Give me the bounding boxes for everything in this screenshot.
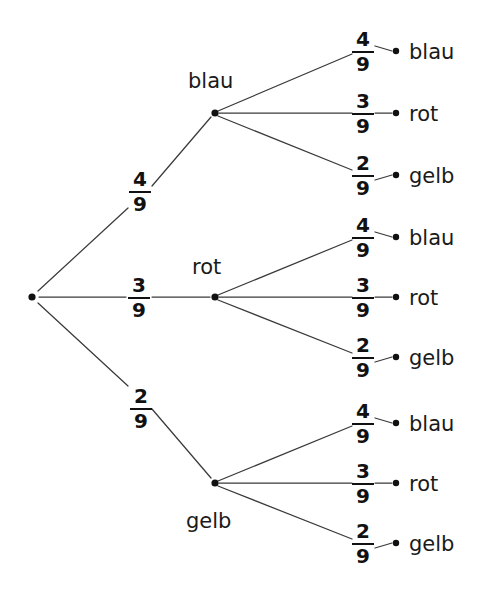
leaf-label-gelb-blau: blau bbox=[409, 412, 454, 436]
fraction-denominator: 9 bbox=[134, 409, 148, 433]
fraction-gelb-blau: 4 9 bbox=[352, 399, 374, 448]
tree-canvas: blau rot gelb 4 9 3 9 2 9 bbox=[0, 0, 481, 591]
fraction-numerator: 4 bbox=[356, 399, 370, 423]
node-label-gelb: gelb bbox=[186, 509, 231, 533]
fraction-rot-rot: 3 9 bbox=[352, 273, 374, 322]
fraction-root-rot: 3 9 bbox=[128, 273, 150, 322]
leaf-label-rot-blau: blau bbox=[409, 226, 454, 250]
fraction-numerator: 4 bbox=[356, 213, 370, 237]
level1-fractions: 4 9 3 9 2 9 bbox=[128, 167, 152, 433]
fraction-numerator: 2 bbox=[356, 519, 370, 543]
fraction-denominator: 9 bbox=[356, 358, 370, 382]
leaf-label-blau-gelb: gelb bbox=[409, 164, 454, 188]
fraction-blau-gelb: 2 9 bbox=[352, 151, 374, 200]
fraction-blau-blau: 4 9 bbox=[352, 27, 374, 76]
fraction-denominator: 9 bbox=[133, 192, 147, 216]
edge-rot-to-blau-tail bbox=[375, 232, 392, 237]
fraction-root-blau: 4 9 bbox=[129, 167, 151, 216]
fraction-root-gelb: 2 9 bbox=[130, 384, 152, 433]
leaf-group-rot: 4 9 3 9 2 9 blau rot gelb bbox=[352, 213, 454, 382]
leaf-label-blau-rot: rot bbox=[409, 102, 438, 126]
fraction-gelb-gelb: 2 9 bbox=[352, 519, 374, 568]
edge-blau-to-gelb bbox=[218, 116, 352, 170]
fraction-denominator: 9 bbox=[356, 52, 370, 76]
leaf-label-rot-gelb: gelb bbox=[409, 346, 454, 370]
leaf-label-blau-blau: blau bbox=[409, 40, 454, 64]
node-label-rot: rot bbox=[192, 255, 221, 279]
fraction-rot-gelb: 2 9 bbox=[352, 333, 374, 382]
fraction-numerator: 2 bbox=[356, 333, 370, 357]
leaf-dot-gelb-gelb[interactable] bbox=[393, 540, 399, 546]
fraction-numerator: 3 bbox=[356, 459, 370, 483]
edge-rot-to-gelb-tail bbox=[375, 357, 392, 362]
edge-root-to-gelb bbox=[38, 303, 128, 386]
fraction-rot-blau: 4 9 bbox=[352, 213, 374, 262]
fraction-denominator: 9 bbox=[356, 238, 370, 262]
leaf-label-gelb-rot: rot bbox=[409, 472, 438, 496]
fraction-numerator: 4 bbox=[133, 167, 147, 191]
edge-root-to-blau-upper bbox=[152, 117, 211, 186]
fraction-numerator: 2 bbox=[356, 151, 370, 175]
leaf-dot-gelb-rot[interactable] bbox=[393, 480, 399, 486]
leaf-group-blau: 4 9 3 9 2 9 blau rot gelb bbox=[352, 27, 454, 200]
fraction-numerator: 4 bbox=[356, 27, 370, 51]
leaf-dot-gelb-blau[interactable] bbox=[393, 420, 399, 426]
fraction-blau-rot: 3 9 bbox=[352, 89, 374, 138]
fraction-gelb-rot: 3 9 bbox=[352, 459, 374, 508]
node-root-dot[interactable] bbox=[28, 293, 35, 300]
edge-blau-to-gelb-tail bbox=[375, 175, 392, 180]
fraction-numerator: 3 bbox=[356, 273, 370, 297]
leaf-dot-rot-blau[interactable] bbox=[393, 234, 399, 240]
leaf-group-gelb: 4 9 3 9 2 9 blau rot gelb bbox=[352, 399, 454, 568]
leaf-dot-blau-gelb[interactable] bbox=[393, 172, 399, 178]
level1-edges bbox=[38, 117, 211, 478]
fraction-denominator: 9 bbox=[356, 544, 370, 568]
leaf-dot-blau-rot[interactable] bbox=[393, 110, 399, 116]
leaf-label-gelb-gelb: gelb bbox=[409, 532, 454, 556]
edge-gelb-to-blau-tail bbox=[375, 418, 392, 423]
edge-blau-to-blau-tail bbox=[375, 46, 392, 51]
edge-rot-to-gelb bbox=[218, 300, 352, 353]
probability-tree-diagram: blau rot gelb 4 9 3 9 2 9 bbox=[0, 0, 481, 591]
fraction-denominator: 9 bbox=[356, 424, 370, 448]
fraction-denominator: 9 bbox=[356, 484, 370, 508]
fraction-denominator: 9 bbox=[356, 176, 370, 200]
fraction-denominator: 9 bbox=[132, 298, 146, 322]
node-label-blau: blau bbox=[188, 69, 233, 93]
edge-gelb-to-blau bbox=[218, 426, 352, 481]
edge-gelb-to-gelb-tail bbox=[375, 543, 392, 548]
edge-blau-to-blau bbox=[218, 54, 352, 111]
edge-gelb-to-gelb bbox=[218, 486, 352, 539]
node-rot-dot[interactable] bbox=[211, 293, 218, 300]
fraction-numerator: 3 bbox=[356, 89, 370, 113]
fraction-denominator: 9 bbox=[356, 298, 370, 322]
fraction-numerator: 3 bbox=[132, 273, 146, 297]
fraction-denominator: 9 bbox=[356, 114, 370, 138]
leaf-dot-rot-rot[interactable] bbox=[393, 294, 399, 300]
leaf-dot-rot-gelb[interactable] bbox=[393, 354, 399, 360]
leaf-dot-blau-blau[interactable] bbox=[393, 48, 399, 54]
fraction-numerator: 2 bbox=[134, 384, 148, 408]
edge-root-to-blau bbox=[38, 208, 128, 291]
edge-rot-to-blau bbox=[218, 240, 352, 295]
nodes bbox=[28, 109, 218, 486]
edge-root-to-gelb-lower bbox=[152, 409, 211, 478]
node-blau-dot[interactable] bbox=[211, 109, 218, 116]
leaf-label-rot-rot: rot bbox=[409, 286, 438, 310]
node-gelb-dot[interactable] bbox=[211, 479, 218, 486]
